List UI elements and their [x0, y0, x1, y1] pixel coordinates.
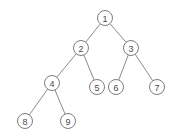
node-layer: 123456789: [18, 11, 165, 129]
node-label-4: 4: [49, 79, 54, 89]
tree-edge-1-3: [110, 24, 126, 43]
node-label-7: 7: [154, 83, 159, 93]
node-label-6: 6: [113, 83, 118, 93]
tree-edge-2-4: [57, 54, 76, 77]
tree-canvas: 123456789: [0, 0, 178, 140]
tree-edge-4-8: [29, 89, 47, 115]
node-label-8: 8: [22, 117, 27, 127]
node-label-3: 3: [128, 44, 133, 54]
tree-node-1[interactable]: 1: [98, 11, 113, 26]
binary-tree-diagram: 123456789: [0, 0, 178, 140]
node-label-2: 2: [78, 44, 83, 54]
tree-node-5[interactable]: 5: [90, 80, 105, 95]
tree-edge-3-6: [119, 55, 129, 80]
tree-edge-3-7: [135, 54, 153, 81]
tree-edge-2-5: [84, 55, 94, 80]
tree-node-4[interactable]: 4: [45, 76, 60, 91]
node-label-1: 1: [102, 14, 107, 24]
edge-layer: [29, 24, 153, 115]
node-label-5: 5: [94, 83, 99, 93]
tree-edge-1-2: [86, 24, 101, 42]
tree-node-8[interactable]: 8: [18, 114, 33, 129]
node-label-9: 9: [65, 117, 70, 127]
tree-node-2[interactable]: 2: [74, 41, 89, 56]
tree-node-3[interactable]: 3: [124, 41, 139, 56]
tree-edge-4-9: [55, 90, 65, 114]
tree-node-9[interactable]: 9: [61, 114, 76, 129]
tree-node-6[interactable]: 6: [109, 80, 124, 95]
tree-node-7[interactable]: 7: [150, 80, 165, 95]
